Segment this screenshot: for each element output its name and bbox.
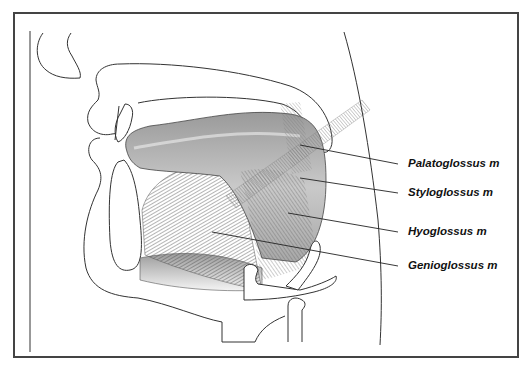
label-genioglossus: Genioglossus m [408,259,497,271]
lower-incisor [109,160,141,270]
nostril-outline [37,33,80,78]
pharynx-wall [344,32,381,345]
label-hyoglossus: Hyoglossus m [408,225,487,237]
larynx-outline [288,298,305,342]
label-palatoglossus: Palatoglossus m [408,157,499,169]
label-styloglossus: Styloglossus m [408,186,493,198]
